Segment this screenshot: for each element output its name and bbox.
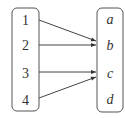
codomain-element-d: d bbox=[107, 92, 115, 107]
domain-element-4: 4 bbox=[22, 93, 29, 108]
domain-element-1: 1 bbox=[22, 13, 29, 28]
mapping-diagram: 1 2 3 4 a b c d bbox=[0, 0, 125, 118]
arrow-4-to-c bbox=[39, 77, 96, 98]
codomain-element-b: b bbox=[107, 38, 114, 53]
domain-element-3: 3 bbox=[22, 66, 29, 81]
codomain-element-a: a bbox=[107, 12, 114, 27]
domain-element-2: 2 bbox=[22, 38, 29, 53]
arrow-1-to-b bbox=[39, 20, 96, 41]
codomain-element-c: c bbox=[107, 66, 114, 81]
